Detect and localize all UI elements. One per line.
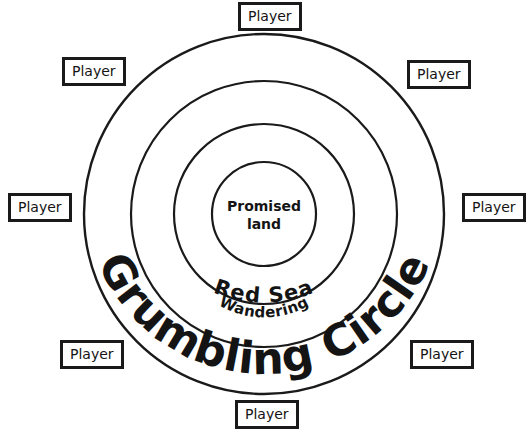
label-promised-land-line1: Promised [227,198,301,214]
ring-promised-land [212,162,316,266]
player-box-top-left[interactable]: Player [62,57,126,86]
player-box-bottom-left[interactable]: Player [60,340,124,369]
player-box-mid-right[interactable]: Player [462,193,526,222]
ring-wandering [174,124,354,304]
player-box-bottom-center[interactable]: Player [235,400,299,429]
player-box-top-right[interactable]: Player [407,60,471,89]
label-promised-land-line2: land [247,216,281,232]
player-box-top-center[interactable]: Player [238,2,302,31]
player-box-bottom-right[interactable]: Player [410,340,474,369]
player-box-mid-left[interactable]: Player [8,193,72,222]
